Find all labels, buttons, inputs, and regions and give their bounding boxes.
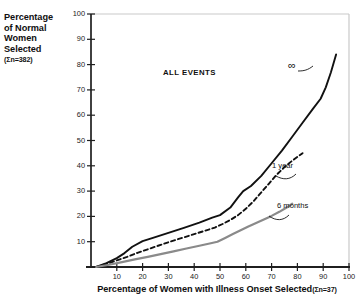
- x-tick-label: 50: [206, 272, 234, 281]
- y-tick-label: 100: [51, 9, 85, 18]
- x-tick-label: 100: [335, 272, 362, 281]
- plot-axes: [86, 14, 350, 267]
- x-tick-label: 80: [283, 272, 311, 281]
- y-tick-label: 40: [51, 161, 85, 170]
- annotation-leader-lines: [269, 66, 313, 220]
- y-tick-label: 10: [51, 237, 85, 246]
- y-axis-title-line-2: of Normal: [4, 23, 46, 33]
- data-series-layer: [96, 54, 336, 267]
- x-tick-label: 60: [232, 272, 260, 281]
- y-axis-title-line-3: Women: [4, 33, 37, 43]
- annotation-all-events: ALL EVENTS: [163, 68, 216, 77]
- x-axis-title: Percentage of Women with Illness Onset S…: [74, 284, 360, 294]
- x-tick-label: 90: [309, 272, 337, 281]
- x-tick-label: 40: [180, 272, 208, 281]
- annotation-series-1year: 1 year: [272, 161, 293, 170]
- y-tick-label: 20: [51, 211, 85, 220]
- y-axis-title-line-1: Percentage: [4, 12, 53, 22]
- x-axis-title-main: Percentage of Women with Illness Onset S…: [97, 284, 312, 294]
- y-tick-label: 30: [51, 186, 85, 195]
- leader-line-infinity: [298, 66, 313, 71]
- y-tick-label: 80: [51, 60, 85, 69]
- annotation-series-infinity: ∞: [288, 61, 296, 69]
- plot-frame: [90, 14, 349, 267]
- y-tick-label: 70: [51, 85, 85, 94]
- y-axis-title-line-4: Selected: [4, 44, 41, 54]
- series-line-: [96, 54, 336, 267]
- x-tick-label: 30: [154, 272, 182, 281]
- x-tick-label: 20: [129, 272, 157, 281]
- x-tick-label: 70: [258, 272, 286, 281]
- leader-line-1year: [276, 174, 296, 179]
- y-tick-label: 50: [51, 136, 85, 145]
- x-axis-title-subscript: (Σn=37): [312, 286, 337, 294]
- y-tick-label: 90: [51, 34, 85, 43]
- y-tick-label: 60: [51, 110, 85, 119]
- chart-figure: Percentage of Normal Women Selected (Σn=…: [0, 0, 362, 305]
- x-tick-label: 10: [103, 272, 131, 281]
- annotation-series-6months: 6 months: [277, 201, 308, 210]
